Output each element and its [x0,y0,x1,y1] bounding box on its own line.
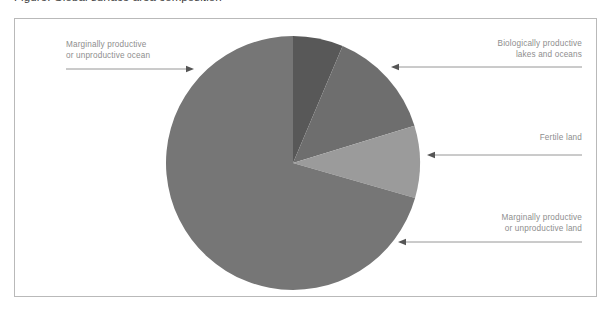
arrow-head-land [398,239,406,245]
callout-label-land-line2: or unproductive land [501,224,582,235]
callout-label-land-line1: Marginally productive [501,213,582,224]
callout-label-ocean-line2: or unproductive ocean [66,51,150,62]
callout-label-ocean: Marginally productive or unproductive oc… [66,40,150,61]
callout-label-ocean-line1: Marginally productive [66,40,150,51]
arrow-head-bio [391,64,399,70]
figure-stage: Figure: Global surface area composition … [0,0,611,312]
pie-slice-group [166,36,420,290]
callout-label-bio: Biologically productive lakes and oceans [498,39,582,60]
callout-label-fertile-line1: Fertile land [540,133,582,144]
callout-label-fertile: Fertile land [540,133,582,144]
arrow-head-fertile [427,152,435,158]
callout-label-bio-line1: Biologically productive [498,39,582,50]
callout-label-land: Marginally productive or unproductive la… [501,213,582,234]
arrow-head-ocean [186,66,194,72]
callout-label-bio-line2: lakes and oceans [498,50,582,61]
